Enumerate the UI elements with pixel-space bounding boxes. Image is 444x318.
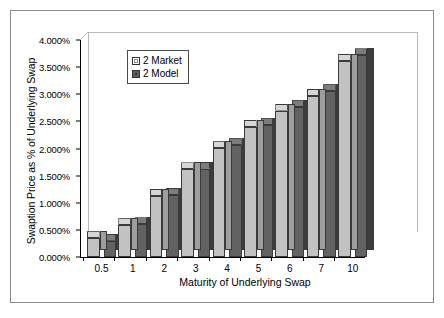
bar-top-face (181, 162, 194, 169)
x-axis-tick-label: 2 (162, 263, 168, 274)
bar-side-face (367, 48, 374, 250)
bar-2-market-3 (181, 169, 194, 257)
y-axis-tick-label: 0.500% (39, 224, 70, 235)
x-axis-tick-mark (146, 257, 147, 261)
x-axis-tick-label: 7 (319, 263, 325, 274)
bar-front-face (244, 127, 257, 257)
y-axis-ticks: 0.000%0.500%1.000%1.500%2.000%2.500%3.00… (24, 34, 76, 262)
legend-label-market: 2 Market (143, 55, 182, 67)
bar-side-face (194, 162, 201, 250)
y-axis-tick-label: 2.500% (39, 116, 70, 127)
x-axis-tick-mark (83, 257, 84, 261)
x-axis-tick-label: 1 (130, 263, 136, 274)
bar-front-face (338, 61, 351, 257)
bar-2-market-1 (118, 225, 131, 257)
bar-2-market-5 (244, 127, 257, 257)
bar-side-face (162, 189, 169, 250)
x-axis-tick-label: 3 (193, 263, 199, 274)
chart-legend: 2 Market 2 Model (127, 50, 189, 84)
y-axis-tick-label: 1.000% (39, 197, 70, 208)
bar-front-face (275, 111, 288, 257)
bar-side-face (257, 120, 264, 250)
bar-2-market-7 (307, 96, 320, 257)
y-axis-tick-label: 1.500% (39, 170, 70, 181)
bar-top-face (87, 231, 100, 238)
bar-top-face (150, 189, 163, 196)
y-axis-tick-label: 2.000% (39, 143, 70, 154)
y-axis-tick-label: 0.000% (39, 252, 70, 263)
bar-top-face (307, 89, 320, 96)
bar-side-face (288, 104, 295, 250)
bar-top-face (244, 120, 257, 127)
bar-front-face (118, 225, 131, 257)
bar-side-face (131, 218, 138, 250)
legend-swatch-market-icon (132, 57, 140, 65)
legend-swatch-model-icon (132, 70, 140, 78)
bar-front-face (307, 96, 320, 257)
y-axis-tick-label: 3.500% (39, 62, 70, 73)
x-axis-tick-label: 0.5 (95, 263, 109, 274)
bar-front-face (213, 148, 226, 257)
x-axis-line (80, 257, 365, 258)
x-axis-title: Maturity of Underlying Swap (60, 276, 430, 288)
bar-front-face (150, 196, 163, 257)
x-axis-tick-label: 6 (287, 263, 293, 274)
bar-front-face (181, 169, 194, 257)
bar-side-face (225, 141, 232, 250)
x-axis-tick-mark (334, 257, 335, 261)
bar-2-market-0.5 (87, 238, 100, 257)
x-axis-tick-label: 10 (347, 263, 358, 274)
bar-2-market-4 (213, 148, 226, 257)
x-axis-tick-mark (303, 257, 304, 261)
y-axis-tick-label: 3.000% (39, 89, 70, 100)
x-axis-tick-mark (240, 257, 241, 261)
x-axis-tick-mark (209, 257, 210, 261)
x-axis-tick-label: 5 (256, 263, 262, 274)
bar-2-market-6 (275, 111, 288, 257)
chart-figure: Swaption Price as % of Underlying Swap 0… (0, 0, 444, 318)
bar-2-market-10 (338, 61, 351, 257)
legend-label-model: 2 Model (143, 68, 179, 80)
x-axis-tick-label: 4 (224, 263, 230, 274)
bar-2-market-2 (150, 196, 163, 257)
bar-front-face (87, 238, 100, 257)
bar-side-face (100, 231, 107, 250)
legend-item-model: 2 Model (132, 67, 182, 80)
bar-top-face (338, 54, 351, 61)
bar-side-face (351, 54, 358, 250)
bar-top-face (118, 218, 131, 225)
x-axis-tick-mark (177, 257, 178, 261)
x-axis-tick-mark (271, 257, 272, 261)
bar-top-face (275, 104, 288, 111)
x-axis-ticks: 0.5123456710 (81, 259, 418, 277)
legend-item-market: 2 Market (132, 54, 182, 67)
y-axis-tick-label: 4.000% (39, 35, 70, 46)
bar-side-face (319, 89, 326, 250)
x-axis-tick-mark (114, 257, 115, 261)
bar-top-face (213, 141, 226, 148)
